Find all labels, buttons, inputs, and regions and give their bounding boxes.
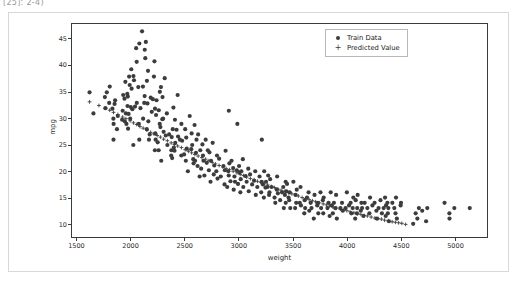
legend-label-train-data: Train Data	[347, 33, 382, 43]
legend-item-train-data: Train Data	[331, 33, 400, 43]
legend-circle-icon	[331, 33, 345, 43]
legend-label-predicted-value: Predicted Value	[347, 43, 400, 53]
x-axis-label: weight	[71, 254, 488, 262]
chart-legend: Train Data + Predicted Value	[325, 29, 408, 57]
scatter-plot-canvas	[72, 24, 487, 237]
plot-axes	[71, 23, 488, 238]
matplotlib-figure: mpg weight 10152025303540451500200025003…	[9, 13, 508, 271]
notebook-output-card: mpg weight 10152025303540451500200025003…	[8, 12, 509, 272]
legend-item-predicted-value: + Predicted Value	[331, 43, 400, 53]
legend-plus-icon: +	[331, 43, 345, 53]
notebook-cell-label: [25]: 2-4)	[3, 0, 44, 7]
